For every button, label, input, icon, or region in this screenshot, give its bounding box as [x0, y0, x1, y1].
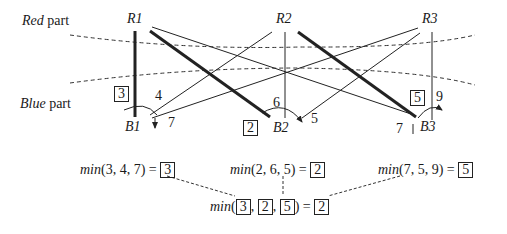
red-part-label: Red part	[22, 14, 69, 28]
edge-r1-b2-selected	[150, 31, 270, 117]
blue-part-label: Blue part	[20, 97, 71, 111]
node-r2: R2	[276, 12, 292, 26]
blue-part-boundary	[70, 68, 475, 85]
weight-b3-r2: 5	[410, 90, 425, 106]
edge-r3-b2	[302, 33, 420, 118]
edge-r2-b3-selected	[298, 32, 416, 117]
connector-b3	[328, 176, 400, 196]
node-b3: B3	[420, 120, 436, 134]
weight-b3-r1: 7	[396, 122, 403, 136]
weight-b3-r3: 9	[436, 90, 443, 104]
weight-b2-r2: 6	[273, 96, 280, 110]
weight-b1-r3: 7	[168, 116, 175, 130]
connector-b1	[167, 176, 235, 196]
node-r3: R3	[422, 12, 438, 26]
equation-final: min(3, 2, 5) = 2	[210, 199, 329, 215]
node-b2: B2	[273, 121, 289, 135]
weight-b2-r3: 5	[311, 112, 318, 126]
equation-b2: min(2, 6, 5) = 2	[230, 162, 325, 178]
equation-b1: min(3, 4, 7) = 3	[80, 162, 175, 178]
node-b1: B1	[125, 120, 141, 134]
weight-b1-r1: 3	[114, 86, 129, 102]
node-r1: R1	[127, 12, 143, 26]
weight-b1-r2: 4	[155, 89, 162, 103]
arc-b3	[418, 107, 442, 118]
equation-b3: min(7, 5, 9) = 5	[378, 162, 473, 178]
weight-b2-r1: 2	[243, 120, 258, 136]
